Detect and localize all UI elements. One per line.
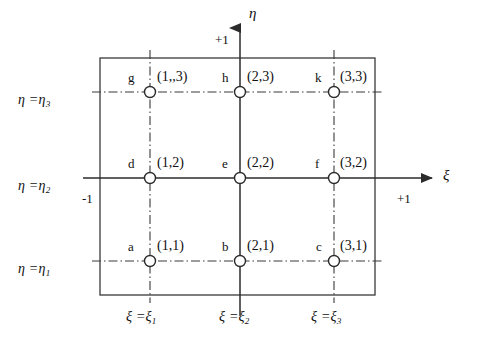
eta-2-prefix: η = [18,178,39,193]
node-label-g: g [128,71,135,84]
xi-1-prefix: ξ = [126,309,146,324]
node-index-a: (1,1) [157,239,184,253]
xi-2-line-label: ξ =ξ2 [219,310,249,324]
eta-top-extent-label: +1 [215,33,229,46]
node-g [145,87,156,98]
xi-left-extent-label: -1 [82,192,93,205]
node-index-e: (2,2) [247,156,274,170]
node-index-f: (3,2) [340,156,367,170]
node-index-k: (3,3) [340,70,367,84]
xi-1-symbol: ξ [146,309,152,324]
node-index-h: (2,3) [247,70,274,84]
eta-3-prefix: η = [18,92,39,107]
node-label-f: f [315,157,319,170]
eta-1-line-label: η =η1 [18,262,50,276]
node-label-a: a [128,240,134,253]
node-e [235,173,246,184]
xi-right-extent-label: +1 [397,192,411,205]
figure-canvas [0,0,479,349]
node-b [235,256,246,267]
eta-axis-label: η [249,6,256,21]
eta-3-symbol: η [39,92,46,107]
eta-1-prefix: η = [18,261,39,276]
eta-1-subscript: 1 [46,268,51,278]
isoparametric-element-figure: η ξ +1 +1 -1 η =η3 η =η2 η =η1 ξ =ξ1 ξ =… [0,0,479,349]
node-label-h: h [222,71,229,84]
xi-axis-label: ξ [443,168,449,183]
eta-3-subscript: 3 [46,99,51,109]
xi-1-subscript: 1 [152,316,157,326]
node-d [145,173,156,184]
eta-2-line-label: η =η2 [18,179,50,193]
xi-1-line-label: ξ =ξ1 [126,310,156,324]
node-label-c: c [316,240,322,253]
xi-3-line-label: ξ =ξ3 [311,310,341,324]
node-f [329,173,340,184]
node-index-b: (2,1) [247,239,274,253]
node-index-g: (1,,3) [157,70,187,84]
node-c [329,256,340,267]
node-label-d: d [128,157,135,170]
xi-3-prefix: ξ = [311,309,331,324]
eta-1-symbol: η [39,261,46,276]
node-h [235,87,246,98]
eta-2-symbol: η [39,178,46,193]
xi-2-symbol: ξ [239,309,245,324]
xi-2-prefix: ξ = [219,309,239,324]
node-label-e: e [222,157,228,170]
xi-3-subscript: 3 [337,316,342,326]
node-a [145,256,156,267]
node-index-d: (1,2) [157,156,184,170]
node-label-k: k [315,71,322,84]
node-index-c: (3,1) [340,239,367,253]
xi-2-subscript: 2 [245,316,250,326]
node-label-b: b [222,240,229,253]
eta-2-subscript: 2 [46,185,51,195]
node-k [329,87,340,98]
xi-3-symbol: ξ [331,309,337,324]
eta-3-line-label: η =η3 [18,93,50,107]
